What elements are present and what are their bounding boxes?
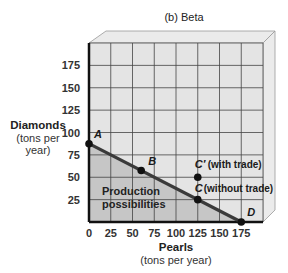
point-b xyxy=(137,167,145,175)
point-note: (without trade) xyxy=(204,183,273,194)
x-tick-label: 50 xyxy=(126,227,138,239)
ppf-chart: ABC(without trade)C′(with trade)D 255075… xyxy=(0,0,288,273)
point-label: C′ xyxy=(195,158,207,170)
y-tick-label: 25 xyxy=(68,194,80,206)
x-tick-label: 100 xyxy=(167,227,185,239)
x-tick-label: 125 xyxy=(189,227,207,239)
y-tick-label: 125 xyxy=(62,104,80,116)
chart-title: (b) Beta xyxy=(164,11,204,23)
y-tick-label: 75 xyxy=(68,149,80,161)
x-axis-subtitle: (tons per year) xyxy=(140,254,212,266)
chart-box-top-face xyxy=(89,31,275,43)
x-tick-label: 150 xyxy=(210,227,228,239)
x-tick-label: 75 xyxy=(148,227,160,239)
point-label: D xyxy=(247,206,255,218)
x-tick-label: 0 xyxy=(86,227,92,239)
point-d xyxy=(237,218,245,226)
y-axis-subtitle-1: (tons per xyxy=(16,132,60,144)
region-label-line2: possibilities xyxy=(102,198,166,210)
x-axis-title: Pearls xyxy=(159,241,194,253)
y-tick-label: 50 xyxy=(68,171,80,183)
point-label: A xyxy=(93,128,102,140)
x-tick-label: 175 xyxy=(232,227,250,239)
region-label-line1: Production xyxy=(102,185,160,197)
point-c-prime xyxy=(194,173,202,181)
x-tick-labels: 0255075100125150175 xyxy=(86,227,250,239)
y-axis-title: Diamonds xyxy=(10,119,66,131)
point-label: B xyxy=(148,155,156,167)
point-label: C xyxy=(195,182,204,194)
y-tick-labels: 255075100125150175 xyxy=(62,59,80,205)
x-tick-label: 25 xyxy=(105,227,117,239)
y-tick-label: 175 xyxy=(62,59,80,71)
point-note: (with trade) xyxy=(208,159,262,170)
point-c xyxy=(194,196,202,204)
y-axis-subtitle-2: year) xyxy=(25,144,50,156)
point-a xyxy=(85,140,93,148)
y-tick-label: 150 xyxy=(62,82,80,94)
